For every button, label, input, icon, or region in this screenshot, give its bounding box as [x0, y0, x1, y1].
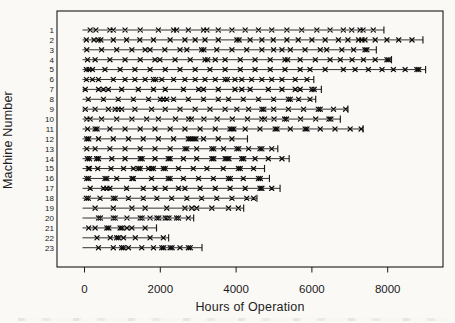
scan-artifact-strip: [18, 318, 449, 321]
y-axis-label: Machine Number: [1, 75, 15, 205]
machine-number-label: 22: [45, 234, 54, 243]
event-plot-figure: 0200040006000800012345678910111213141516…: [0, 0, 455, 323]
machine-number-label: 2: [50, 36, 55, 45]
machine-number-label: 4: [50, 56, 55, 65]
machine-number-label: 7: [50, 85, 55, 94]
machine-number-label: 6: [50, 75, 55, 84]
machine-number-label: 16: [45, 174, 54, 183]
x-axis-tick-label: 2000: [148, 283, 174, 295]
machine-number-label: 20: [45, 214, 54, 223]
machine-number-label: 23: [45, 244, 54, 253]
machine-number-label: 15: [45, 164, 54, 173]
x-axis-label: Hours of Operation: [57, 300, 443, 314]
machine-number-label: 17: [45, 184, 54, 193]
machine-number-label: 3: [50, 46, 55, 55]
x-axis-tick-label: 0: [81, 283, 87, 295]
machine-number-label: 12: [45, 135, 54, 144]
machine-number-label: 8: [50, 95, 55, 104]
machine-number-label: 18: [45, 194, 54, 203]
x-axis-tick-label: 6000: [299, 283, 325, 295]
x-axis-tick-label: 8000: [375, 283, 401, 295]
machine-number-label: 9: [50, 105, 55, 114]
machine-number-label: 14: [45, 155, 54, 164]
machine-number-label: 13: [45, 145, 54, 154]
machine-number-label: 11: [46, 125, 55, 134]
machine-number-label: 1: [50, 26, 55, 35]
machine-number-label: 19: [45, 204, 54, 213]
plot-canvas: 0200040006000800012345678910111213141516…: [0, 0, 455, 323]
x-axis-tick-label: 4000: [223, 283, 249, 295]
machine-number-label: 21: [45, 224, 54, 233]
machine-number-label: 5: [50, 65, 55, 74]
machine-number-label: 10: [45, 115, 54, 124]
